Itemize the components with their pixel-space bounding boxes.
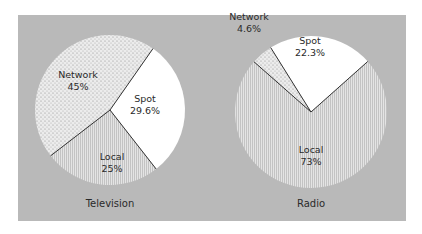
radio-title: Radio	[297, 198, 325, 209]
radio-value-local: 73%	[300, 156, 321, 167]
television-value-spot: 29.6%	[130, 105, 160, 116]
television-value-local: 25%	[101, 163, 122, 174]
radio-value-spot: 22.3%	[295, 47, 325, 58]
television-label-local: Local	[100, 151, 125, 162]
television-value-network: 45%	[67, 81, 88, 92]
pie-charts: Network45%Spot29.6%Local25% Network4.6%S…	[0, 0, 422, 234]
radio-label-local: Local	[299, 144, 324, 155]
radio-pie: Network4.6%Spot22.3%Local73%	[229, 11, 387, 188]
television-pie: Network45%Spot29.6%Local25%	[35, 35, 185, 185]
television-title: Television	[85, 198, 135, 209]
television-label-network: Network	[58, 69, 98, 80]
television-label-spot: Spot	[134, 93, 156, 104]
radio-label-spot: Spot	[299, 35, 321, 46]
radio-value-network: 4.6%	[237, 23, 261, 34]
radio-label-network: Network	[229, 11, 269, 22]
